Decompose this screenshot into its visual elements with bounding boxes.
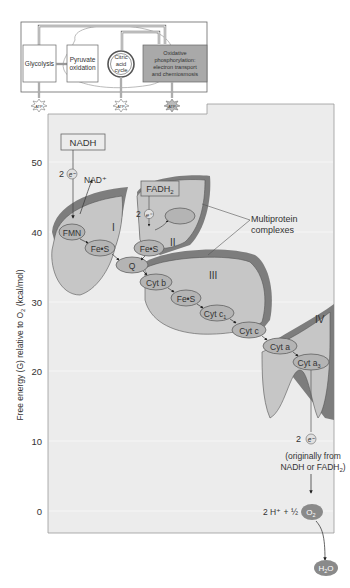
carrier-cyt-c1: Cyt c1 bbox=[200, 305, 234, 321]
carrier-q: Q bbox=[116, 257, 148, 273]
svg-text:e⁻: e⁻ bbox=[146, 212, 153, 218]
svg-text:Cyt a: Cyt a bbox=[270, 342, 290, 352]
ytick-40: 40 bbox=[31, 227, 42, 238]
svg-text:Cyt b: Cyt b bbox=[146, 278, 166, 288]
carrier-cyt-b: Cyt b bbox=[140, 274, 172, 290]
ytick-30: 30 bbox=[31, 297, 42, 308]
svg-text:Cyt c1: Cyt c1 bbox=[204, 309, 226, 320]
pyruvate-label-2: oxidation bbox=[69, 64, 95, 71]
svg-text:e⁻: e⁻ bbox=[69, 171, 77, 178]
y-axis: 50 40 30 20 10 0 Free energy (G) relativ… bbox=[15, 157, 42, 517]
oxphos-label-2: phosphorylation: bbox=[154, 57, 195, 63]
pathway-overview-inset: Glycolysis Pyruvate oxidation Citric aci… bbox=[21, 22, 207, 112]
electron-count-1: 2 bbox=[59, 169, 64, 179]
svg-text:e⁻: e⁻ bbox=[308, 436, 316, 443]
svg-text:Fe•S: Fe•S bbox=[91, 244, 110, 254]
oxphos-label-4: and chemiosmosis bbox=[152, 71, 199, 77]
atp-burst-oxphos: ATP bbox=[164, 99, 180, 112]
svg-text:ATP: ATP bbox=[35, 104, 43, 109]
nadh-label: NADH bbox=[70, 137, 97, 148]
electron-count-2: 2 bbox=[136, 209, 141, 219]
svg-text:Fe•S: Fe•S bbox=[140, 244, 159, 254]
ytick-0: 0 bbox=[37, 506, 42, 517]
citric-label-1: Citric bbox=[114, 54, 127, 60]
complex-III-label: III bbox=[209, 270, 217, 281]
carrier-fe-s-1: Fe•S bbox=[85, 240, 115, 256]
complex-I-label: I bbox=[112, 222, 115, 233]
citric-label-2: acid bbox=[116, 61, 127, 67]
complex-II-label: II bbox=[170, 237, 176, 248]
svg-text:FMN: FMN bbox=[63, 228, 81, 238]
svg-text:ATP: ATP bbox=[117, 104, 125, 109]
fadh2-label: FADH2 bbox=[146, 184, 174, 195]
carrier-fe-s-2: Fe•S bbox=[134, 240, 164, 256]
carrier-cyt-a: Cyt a bbox=[263, 338, 297, 354]
y-axis-label: Free energy (G) relative to O2 (kcal/mol… bbox=[15, 269, 26, 420]
complex-III: III bbox=[145, 250, 272, 335]
carrier-cyt-a3: Cyt a3 bbox=[293, 354, 329, 370]
oxphos-label-1: Oxidative bbox=[163, 50, 186, 56]
carrier-fad bbox=[165, 208, 195, 224]
proton-equation: 2 H⁺ + ½ bbox=[263, 507, 298, 517]
ytick-50: 50 bbox=[31, 157, 42, 168]
svg-text:ATP: ATP bbox=[168, 104, 176, 109]
nad-plus-label: NAD⁺ bbox=[84, 175, 107, 185]
carrier-fe-s-3: Fe•S bbox=[171, 290, 201, 306]
complex-IV-label: IV bbox=[315, 314, 325, 325]
electron-count-3: 2 bbox=[296, 434, 301, 444]
ytick-10: 10 bbox=[31, 436, 42, 447]
electron-transport-chain-diagram: Glycolysis Pyruvate oxidation Citric aci… bbox=[0, 0, 350, 588]
multiprotein-label-1: Multiprotein bbox=[251, 214, 298, 224]
ytick-20: 20 bbox=[31, 366, 42, 377]
origin-note-1: (originally from bbox=[285, 451, 341, 461]
oxphos-label-3: electron transport bbox=[153, 64, 197, 70]
glycolysis-label: Glycolysis bbox=[25, 60, 55, 68]
svg-text:Fe•S: Fe•S bbox=[177, 294, 196, 304]
svg-text:Q: Q bbox=[129, 261, 136, 271]
svg-text:Cyt c: Cyt c bbox=[239, 326, 259, 336]
carrier-cyt-c: Cyt c bbox=[232, 322, 266, 338]
svg-text:Cyt a3: Cyt a3 bbox=[298, 358, 321, 369]
multiprotein-label-2: complexes bbox=[251, 225, 295, 235]
carrier-fmn: FMN bbox=[59, 224, 85, 240]
pyruvate-label-1: Pyruvate bbox=[70, 56, 96, 64]
origin-note-2: NADH or FADH2) bbox=[280, 462, 345, 473]
atp-burst-glycolysis: ATP bbox=[31, 99, 47, 112]
citric-label-3: cycle bbox=[114, 67, 127, 73]
atp-burst-citric: ATP bbox=[113, 99, 129, 112]
